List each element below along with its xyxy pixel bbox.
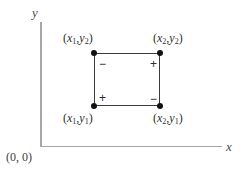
x-subscript: 2	[162, 117, 166, 126]
origin-label: (0, 0)	[6, 151, 32, 163]
y-var: y	[169, 111, 174, 125]
vertex-bottom-left	[91, 103, 97, 109]
y-subscript: 1	[175, 117, 179, 126]
paren-close: )	[179, 31, 183, 45]
y-subscript: 2	[175, 37, 179, 46]
point-label-top-right: (x2,y2)	[153, 32, 183, 44]
y-var: y	[169, 31, 174, 45]
x-axis-label: x	[226, 140, 232, 153]
y-axis-label: y	[32, 6, 38, 19]
corner-sign-top-left: −	[99, 58, 106, 70]
x-axis-line	[40, 146, 222, 148]
vertex-top-right	[157, 50, 163, 56]
paren-close: )	[89, 111, 93, 125]
x-subscript: 2	[162, 37, 166, 46]
y-var: y	[79, 111, 84, 125]
paren-close: )	[179, 111, 183, 125]
y-var: y	[79, 31, 84, 45]
corner-sign-bottom-left: +	[99, 92, 106, 104]
point-label-bottom-left: (x1,y1)	[63, 112, 93, 124]
corner-sign-top-right: +	[150, 58, 157, 70]
corner-sign-bottom-right: −	[150, 93, 157, 105]
vertex-top-left	[91, 50, 97, 56]
point-label-bottom-right: (x2,y1)	[153, 112, 183, 124]
figure-canvas: y x (0, 0) − + + − (x1,y2) (x2,y2) (x1,y…	[0, 0, 250, 171]
y-subscript: 1	[85, 117, 89, 126]
y-subscript: 2	[85, 37, 89, 46]
y-axis-line	[40, 22, 42, 147]
vertex-bottom-right	[157, 103, 163, 109]
point-label-top-left: (x1,y2)	[63, 32, 93, 44]
x-subscript: 1	[72, 37, 76, 46]
x-subscript: 1	[72, 117, 76, 126]
paren-close: )	[89, 31, 93, 45]
